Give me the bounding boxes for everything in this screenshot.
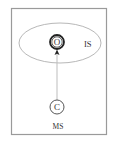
is-region-label: IS [84, 39, 92, 49]
node-c-label: C [54, 102, 60, 112]
node-o-label: O [54, 37, 61, 47]
diagram-canvas: IS O C MS [0, 0, 115, 148]
diagram-frame [12, 9, 107, 135]
node-o: O [50, 35, 64, 49]
node-c: C [50, 100, 64, 114]
ms-label: MS [53, 122, 64, 131]
